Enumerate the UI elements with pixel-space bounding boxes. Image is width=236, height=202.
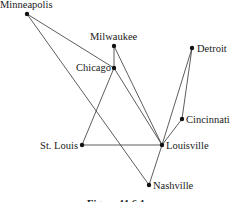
label-louisville: Louisville [166, 140, 209, 151]
node-milwaukee [112, 44, 116, 48]
label-milwaukee: Milwaukee [90, 31, 138, 42]
node-chicago [112, 66, 116, 70]
label-detroit: Detroit [197, 43, 227, 54]
node-detroit [190, 46, 194, 50]
node-st-louis [80, 143, 84, 147]
city-network-diagram: MinneapolisMilwaukeeChicagoDetroitCincin… [0, 0, 236, 202]
edge-louisville-nashville [149, 145, 162, 185]
label-minneapolis: Minneapolis [0, 0, 53, 10]
node-nashville [147, 183, 151, 187]
edge-detroit-louisville [162, 48, 192, 145]
edge-milwaukee-louisville [114, 46, 162, 145]
labels-group: MinneapolisMilwaukeeChicagoDetroitCincin… [0, 0, 230, 191]
label-chicago: Chicago [76, 62, 111, 73]
node-louisville [160, 143, 164, 147]
label-st-louis: St. Louis [40, 140, 78, 151]
figure-caption: Figure 11.6.1 [87, 198, 145, 202]
node-minneapolis [25, 12, 29, 16]
edge-chicago-louisville [114, 68, 162, 145]
node-cincinnati [180, 117, 184, 121]
label-cincinnati: Cincinnati [186, 114, 230, 125]
label-nashville: Nashville [153, 180, 194, 191]
edge-chicago-st-louis [82, 68, 114, 145]
edge-detroit-cincinnati [182, 48, 192, 119]
